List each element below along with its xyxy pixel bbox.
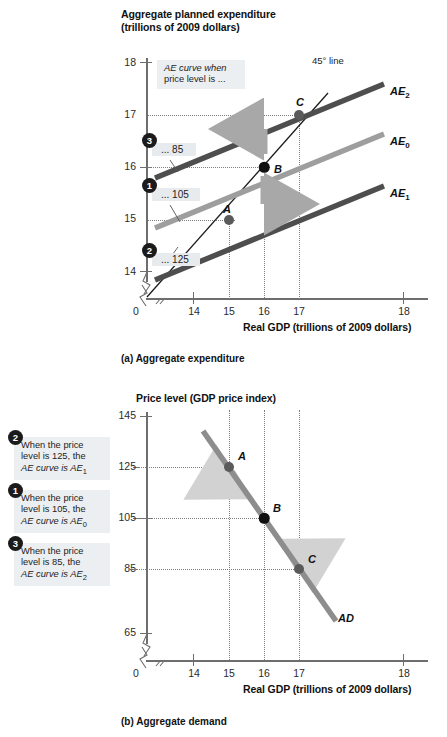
panel-b-point-b: [259, 513, 270, 524]
panel-b-annotation-1-line3: AE curve is AE0: [21, 516, 105, 530]
panel-b-badge-2: 2: [8, 430, 23, 445]
panel-b-curve-label-ad: AD: [338, 612, 354, 624]
panel-a-plot: 18 17 16 15 14 0 14 15 16 17 18: [0, 0, 447, 330]
panel-a-caption: (a) Aggregate expenditure: [121, 353, 245, 364]
panel-a-badge-2: 2: [142, 243, 157, 258]
panel-b-annotation-3-line2: level is 85, the: [21, 557, 105, 568]
panel-b-point-a: [224, 462, 234, 472]
panel-a-marker-value-125: ... 125: [152, 253, 200, 266]
panel-b-annotation-3: When the price level is 85, the AE curve…: [14, 543, 110, 586]
panel-b-annotation-3-line3: AE curve is AE2: [21, 569, 105, 583]
panel-b-annotation-2: When the price level is 125, the AE curv…: [14, 437, 110, 480]
panel-b-annotation-3-line1: When the price: [21, 546, 105, 557]
panel-b-caption: (b) Aggregate demand: [121, 716, 227, 727]
panel-a-leader-125: [0, 0, 447, 330]
panel-b-annotation-1-line3-text: AE curve is AE: [21, 516, 83, 526]
panel-b-curve-ad: [0, 380, 447, 700]
panel-b-badge-3: 3: [8, 536, 23, 551]
panel-a-x-axis-title: Real GDP (trillions of 2009 dollars): [243, 321, 411, 334]
panel-b-plot: 145 125 105 85 65 0 14 15 16 17 18: [0, 380, 447, 700]
panel-b-annotation-1-line2: level is 105, the: [21, 504, 105, 515]
panel-a: Aggregate planned expenditure (trillions…: [0, 0, 447, 368]
panel-b-annotation-1-line1: When the price: [21, 493, 105, 504]
panel-b-x-axis-title: Real GDP (trillions of 2009 dollars): [243, 683, 411, 696]
panel-b: Price level (GDP price index) 145 125 10…: [0, 380, 447, 737]
panel-b-badge-1: 1: [8, 483, 23, 498]
panel-b-point-label-a: A: [238, 450, 246, 462]
panel-b-annotation-2-line3-sub: 1: [83, 467, 87, 476]
panel-b-annotation-1: When the price level is 105, the AE curv…: [14, 490, 110, 533]
panel-b-annotation-2-line2: level is 125, the: [21, 451, 105, 462]
panel-b-point-c: [294, 564, 304, 574]
panel-b-annotation-1-line3-sub: 0: [83, 520, 87, 529]
panel-b-annotation-3-line3-sub: 2: [83, 573, 87, 582]
panel-b-annotation-2-line1: When the price: [21, 440, 105, 451]
panel-b-annotation-2-line3: AE curve is AE1: [21, 463, 105, 477]
panel-b-annotation-2-line3-text: AE curve is AE: [21, 463, 83, 473]
panel-b-point-label-b: B: [273, 502, 281, 514]
panel-b-annotation-3-line3-text: AE curve is AE: [21, 569, 83, 579]
panel-b-point-label-c: C: [308, 553, 316, 565]
